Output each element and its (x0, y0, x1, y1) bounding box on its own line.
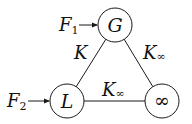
node-g-label: G (107, 14, 122, 36)
edge-label-l-inf-sub: ∞ (115, 87, 124, 100)
edge-label-g-l-main: K (73, 42, 89, 63)
input-label-f2: F2 (6, 90, 27, 113)
node-infinity-label: ∞ (154, 89, 170, 111)
edge-label-g-l: K (73, 42, 89, 63)
node-l-label: L (60, 90, 74, 112)
node-infinity: ∞ (145, 84, 179, 118)
node-g: G (98, 8, 132, 42)
edge-label-g-inf-sub: ∞ (156, 50, 165, 63)
graph-diagram: G L ∞ F1 F2 K K∞ K∞ (0, 0, 192, 124)
node-l: L (50, 84, 84, 118)
input-label-f1: F1 (58, 14, 79, 37)
edge-label-l-inf: K∞ (101, 79, 125, 100)
edge-label-g-inf: K∞ (142, 42, 166, 63)
input-label-f1-sub: 1 (72, 24, 79, 37)
input-label-f2-sub: 2 (20, 100, 27, 113)
